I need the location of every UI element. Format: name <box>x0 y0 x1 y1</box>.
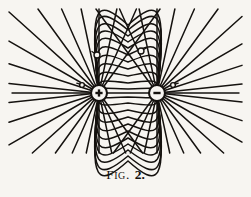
marker-axis-right-tick <box>175 83 178 84</box>
radial-field-line <box>165 94 242 102</box>
radial-field-line <box>9 84 91 93</box>
caption-number: 2. <box>135 167 145 182</box>
marker-right <box>138 48 144 54</box>
caption-prefix: F <box>106 167 114 182</box>
radial-field-line <box>165 65 242 90</box>
radial-field-line <box>9 94 91 103</box>
radial-field-line <box>9 95 91 122</box>
marker-axis-right <box>171 83 176 88</box>
marker-axis-left <box>80 83 85 88</box>
caption-separator: . <box>126 167 130 182</box>
radial-field-line <box>165 95 242 120</box>
figure-container: FIG.2. <box>0 0 251 197</box>
caption-smallcaps: IG <box>114 170 126 181</box>
radial-field-line <box>9 64 91 91</box>
marker-left-tick <box>92 51 95 53</box>
radial-field-line <box>165 84 242 92</box>
figure-caption: FIG.2. <box>0 166 251 182</box>
marker-axis-left-tick <box>77 83 80 84</box>
